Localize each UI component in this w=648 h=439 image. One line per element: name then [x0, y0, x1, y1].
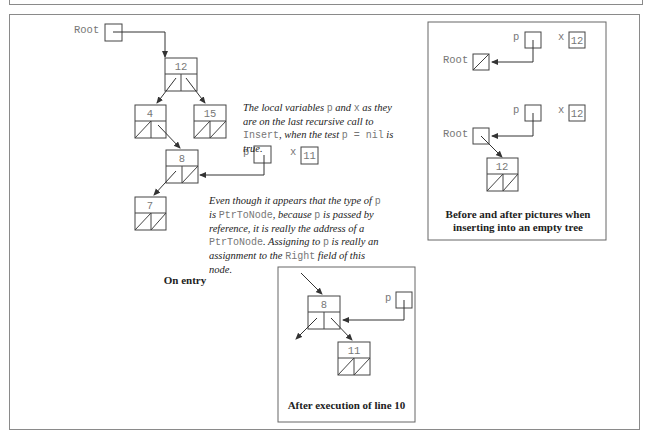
line10-p-label: p: [385, 292, 391, 304]
after-x-value: 12: [571, 108, 584, 120]
before-root-nil-box: [473, 54, 489, 70]
note-text: The local variables: [243, 102, 327, 113]
before-root-label: Root: [443, 54, 468, 66]
after-root-box: [473, 128, 502, 157]
before-p-label: p: [513, 31, 519, 43]
note-code: p: [375, 196, 381, 207]
note-code: PtrToNode: [219, 210, 273, 221]
note-code: PtrToNode: [209, 237, 263, 248]
before-x-label: x: [558, 31, 564, 43]
after-p-label: p: [513, 104, 519, 116]
after-node-12-value: 12: [496, 161, 509, 173]
after-p-variable-box: [343, 292, 412, 320]
empty-tree-caption-line2: inserting into an empty tree: [430, 221, 606, 234]
incoming-arrow: [301, 273, 322, 294]
note-code: Insert: [243, 130, 279, 141]
after-line10-caption: After execution of line 10: [278, 399, 415, 412]
tree-node-8: [154, 150, 198, 195]
line10-node-8-value: 8: [321, 299, 327, 311]
tree-node-4: [135, 105, 180, 148]
note-text: , because: [273, 209, 315, 220]
after-root-label: Root: [443, 128, 468, 140]
root-label: Root: [74, 24, 99, 36]
note-text: is: [209, 209, 219, 220]
before-x-value: 12: [571, 35, 584, 47]
node-15-value: 15: [204, 108, 217, 120]
line10-node-11-value: 11: [348, 345, 361, 357]
locals-note: The local variables p and x as they are …: [243, 101, 403, 155]
after-x-label: x: [558, 104, 564, 116]
empty-tree-caption-line1: Before and after pictures when: [430, 208, 606, 221]
note-text: . Assigning to: [263, 236, 323, 247]
root-pointer: [105, 24, 165, 57]
note-text: and: [333, 102, 354, 113]
on-entry-caption: On entry: [140, 274, 230, 287]
note-code: Right: [285, 251, 315, 262]
reference-note: Even though it appears that the type of …: [209, 194, 381, 276]
note-text: , when the test: [279, 129, 342, 140]
node-7-value: 7: [147, 200, 153, 212]
note-code: p = nil: [342, 130, 384, 141]
node-12-value: 12: [175, 61, 188, 73]
note-text: Even though it appears that the type of: [209, 195, 375, 206]
node-8-value: 8: [179, 153, 185, 165]
empty-tree-caption: Before and after pictures when inserting…: [430, 208, 606, 234]
node-4-value: 4: [147, 108, 153, 120]
